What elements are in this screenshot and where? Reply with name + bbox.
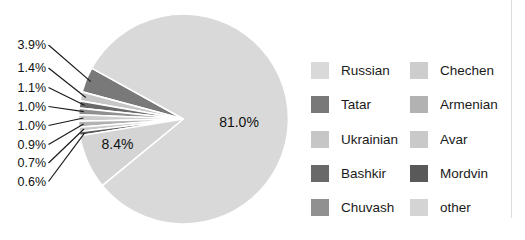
legend-swatch-bashkir xyxy=(311,165,329,182)
legend-label-tatar: Tatar xyxy=(341,96,371,113)
pct-label-other: 8.4% xyxy=(102,136,134,152)
legend: RussianTatarUkrainianBashkirChuvashChech… xyxy=(311,62,509,216)
leader-line-tatar xyxy=(49,45,91,82)
legend-label-avar: Avar xyxy=(440,131,468,148)
legend-label-chuvash: Chuvash xyxy=(341,199,394,216)
legend-swatch-ukrainian xyxy=(311,131,329,148)
legend-swatch-russian xyxy=(311,62,329,79)
legend-swatch-avar xyxy=(410,131,428,148)
pct-label-ukrainian: 1.4% xyxy=(18,61,47,75)
pct-label-tatar: 3.9% xyxy=(18,38,47,52)
pct-label-armenian: 0.9% xyxy=(18,138,47,152)
legend-item-armenian: Armenian xyxy=(410,96,509,113)
page-border-line xyxy=(511,0,512,218)
leader-line-bashkir xyxy=(49,88,85,106)
legend-swatch-tatar xyxy=(311,96,329,113)
legend-swatch-chuvash xyxy=(311,199,329,216)
legend-label-ukrainian: Ukrainian xyxy=(341,131,398,148)
legend-swatch-chechen xyxy=(410,62,428,79)
legend-label-chechen: Chechen xyxy=(440,62,494,79)
legend-item-chuvash: Chuvash xyxy=(311,199,410,216)
legend-item-avar: Avar xyxy=(410,131,509,148)
legend-item-other: other xyxy=(410,199,509,216)
pct-label-avar: 0.7% xyxy=(18,156,47,170)
legend-item-bashkir: Bashkir xyxy=(311,165,410,182)
legend-swatch-other xyxy=(410,199,428,216)
legend-item-mordvin: Mordvin xyxy=(410,165,509,182)
pct-label-bashkir: 1.1% xyxy=(18,81,47,95)
legend-swatch-armenian xyxy=(410,96,428,113)
legend-label-other: other xyxy=(440,199,471,216)
pct-label-chechen: 1.0% xyxy=(18,119,47,133)
legend-item-tatar: Tatar xyxy=(311,96,410,113)
legend-item-russian: Russian xyxy=(311,62,410,79)
legend-label-russian: Russian xyxy=(341,62,390,79)
pct-label-mordvin: 0.6% xyxy=(18,175,47,189)
legend-item-ukrainian: Ukrainian xyxy=(311,131,410,148)
legend-label-mordvin: Mordvin xyxy=(440,165,488,182)
legend-swatch-mordvin xyxy=(410,165,428,182)
pct-label-chuvash: 1.0% xyxy=(18,100,47,114)
legend-label-armenian: Armenian xyxy=(440,96,498,113)
legend-label-bashkir: Bashkir xyxy=(341,165,386,182)
pct-label-russian: 81.0% xyxy=(219,114,259,130)
legend-item-chechen: Chechen xyxy=(410,62,509,79)
pie-chart-figure: 3.9%1.4%1.1%1.0%1.0%0.9%0.7%0.6%8.4%81.0… xyxy=(0,0,525,240)
